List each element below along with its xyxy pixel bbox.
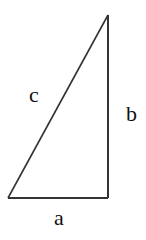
- label-c: c: [29, 82, 39, 107]
- right-triangle-diagram: c b a: [0, 0, 146, 240]
- side-c-hypotenuse: [8, 15, 108, 198]
- label-b: b: [126, 101, 137, 126]
- label-a: a: [54, 205, 64, 230]
- triangle: [8, 15, 108, 198]
